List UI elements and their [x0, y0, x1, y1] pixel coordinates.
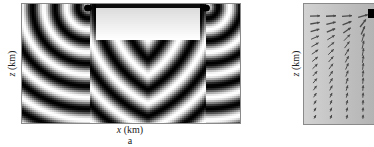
arrow-icon [330, 93, 333, 98]
arrow-icon [328, 42, 334, 47]
arrow-icon [362, 41, 365, 49]
arrow-icon [330, 86, 333, 91]
arrow-icon [342, 14, 352, 17]
arrow-icon [313, 71, 317, 76]
source-marker-icon [202, 5, 210, 12]
arrow-icon [362, 108, 365, 112]
arrow-icon [343, 21, 352, 25]
arrow-icon [346, 78, 349, 84]
y-axis-unit: (km) [6, 51, 17, 73]
y-axis-label-a: z (km) [6, 47, 17, 81]
arrow-icon [327, 35, 334, 39]
arrow-icon [344, 35, 350, 41]
arrow-icon [329, 108, 332, 112]
x-axis-unit: (km) [121, 124, 143, 135]
arrow-icon [362, 70, 365, 76]
arrow-icon [362, 93, 365, 98]
arrow-icon [346, 93, 349, 98]
arrow-icon [362, 33, 365, 41]
arrow-icon [362, 115, 365, 119]
arrow-icon [360, 19, 366, 27]
arrow-icon [330, 100, 333, 104]
arrow-icon [313, 86, 316, 90]
arrow-icon [328, 49, 334, 54]
arrow-icon [313, 79, 317, 84]
arrow-icon [310, 21, 319, 24]
arrow-icon [346, 71, 349, 77]
arrow-icon [326, 21, 335, 24]
source-marker-icon [84, 5, 92, 12]
arrow-icon [362, 78, 365, 84]
arrow-icon [345, 56, 348, 63]
arrow-icon [329, 56, 334, 62]
arrow-icon [346, 63, 349, 69]
arrow-icon [358, 14, 368, 17]
arrow-icon [362, 100, 365, 105]
arrow-icon [312, 57, 318, 62]
source-marker-icon [368, 9, 374, 18]
vector-field-image [304, 4, 374, 124]
arrow-icon [330, 78, 333, 83]
vector-field-panel [303, 3, 374, 125]
arrow-icon [362, 56, 365, 63]
arrow-icon [311, 43, 318, 47]
arrow-icon [310, 14, 320, 17]
y-axis-var: z [6, 73, 17, 77]
arrow-icon [314, 100, 317, 104]
wavefield-image [22, 4, 240, 123]
arrow-icon [343, 28, 350, 33]
arrow-icon [329, 115, 332, 119]
arrow-icon [326, 14, 336, 17]
arrow-icon [345, 108, 348, 112]
arrow-icon [362, 85, 365, 90]
y-axis-label-b: z (km) [290, 47, 301, 81]
wavefield-panel [21, 3, 241, 124]
arrow-icon [345, 42, 350, 49]
arrow-icon [313, 64, 318, 69]
arrow-icon [311, 36, 319, 40]
y-axis-var: z [290, 73, 301, 77]
arrow-icon [314, 93, 317, 97]
arrow-icon [311, 28, 320, 31]
arrow-icon [361, 26, 365, 34]
arrow-icon [362, 48, 365, 56]
arrow-icon [313, 115, 316, 119]
arrow-icon [312, 50, 318, 54]
arrow-icon [346, 100, 349, 104]
arrow-icon [329, 64, 333, 69]
y-axis-unit: (km) [290, 51, 301, 73]
arrow-icon [329, 71, 333, 76]
arrow-icon [362, 63, 365, 70]
arrow-icon [345, 115, 348, 119]
arrow-icon [346, 85, 349, 90]
x-axis-label-a: x (km) [100, 124, 160, 135]
panel-caption-a: a [120, 135, 140, 146]
arrow-icon [327, 28, 335, 32]
arrow-icon [313, 108, 316, 112]
arrow-icon [345, 49, 349, 56]
